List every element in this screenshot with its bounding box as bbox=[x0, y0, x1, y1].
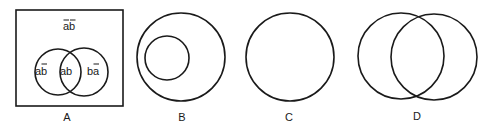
diagram-d: D bbox=[358, 13, 477, 122]
region-left-only-label: ab bbox=[35, 65, 47, 77]
inner-circle bbox=[145, 36, 189, 80]
caption-c: C bbox=[285, 111, 293, 123]
region-intersection-label: ab bbox=[60, 65, 72, 77]
caption-a: A bbox=[63, 111, 71, 123]
region-right-only-label: ba bbox=[87, 65, 100, 77]
diagram-c: C bbox=[246, 13, 334, 123]
region-outside-label: ab bbox=[63, 20, 75, 32]
outer-circle bbox=[137, 13, 225, 101]
diagram-a: ab ab ab ba A bbox=[16, 10, 123, 123]
right-circle bbox=[391, 14, 477, 100]
caption-d: D bbox=[413, 110, 421, 122]
left-circle bbox=[358, 13, 444, 99]
venn-diagrams-figure: ab ab ab ba A B C D bbox=[0, 0, 492, 129]
caption-b: B bbox=[178, 111, 185, 123]
single-circle bbox=[246, 13, 334, 101]
diagram-b: B bbox=[137, 13, 225, 123]
